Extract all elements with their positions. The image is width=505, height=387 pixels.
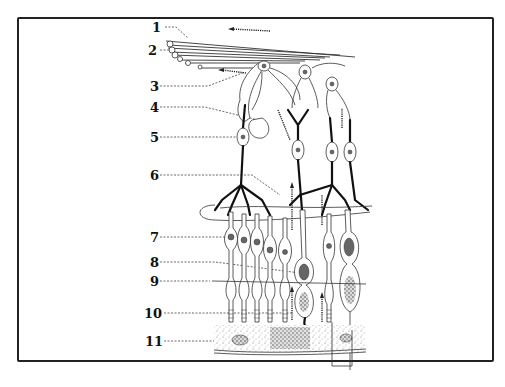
label-8: 8 (150, 256, 159, 269)
ganglion-cells (238, 61, 350, 140)
label-10: 10 (144, 307, 162, 320)
diagram-illustration (0, 0, 505, 387)
label-6: 6 (150, 169, 159, 182)
label-7: 7 (150, 231, 159, 244)
basal-tissue-layer (214, 322, 366, 366)
label-4: 4 (150, 101, 159, 114)
label-11: 11 (145, 335, 163, 348)
label-3: 3 (150, 80, 159, 93)
label-9: 9 (150, 275, 159, 288)
label-1: 1 (152, 21, 161, 34)
label-2: 2 (148, 44, 157, 57)
label-5: 5 (150, 131, 159, 144)
